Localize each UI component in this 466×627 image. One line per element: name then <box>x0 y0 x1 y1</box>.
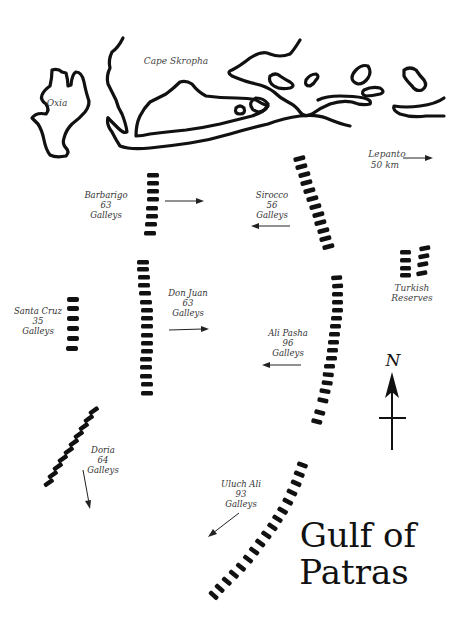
fleet-count-barbarigo: 63 <box>101 200 112 210</box>
galleys-santa-cruz <box>66 297 79 351</box>
coastline <box>32 38 444 157</box>
lepanto-arrowhead-icon <box>425 155 433 161</box>
fleet-unit-doria: Galleys <box>87 465 119 475</box>
doria-arrowhead-icon <box>85 500 91 509</box>
map-title-line1: Gulf of <box>300 515 419 555</box>
fleet-name-uluch-ali: Uluch Ali <box>221 479 261 489</box>
fleet-name-santa-cruz: Santa Cruz <box>14 306 63 316</box>
fleet-count-doria: 64 <box>98 455 109 465</box>
label-lepanto-distance: 50 km <box>371 160 399 170</box>
fleet-unit-sirocco: Galleys <box>256 210 288 220</box>
north-label: N <box>385 350 402 370</box>
islet-2 <box>270 74 294 89</box>
galleys-don-juan <box>137 260 153 396</box>
fleet-count-uluch-ali: 93 <box>236 489 247 499</box>
islet-7 <box>404 68 426 91</box>
uluch-ali-arrow <box>213 513 239 533</box>
barbarigo-arrowhead-icon <box>196 198 204 204</box>
sirocco-arrowhead-icon <box>251 223 259 229</box>
label-lepanto: Lepanto <box>367 149 406 159</box>
islet-4 <box>362 87 383 96</box>
fleet-count-don-juan: 63 <box>183 298 194 308</box>
battle-map: Oxia Cape Skropha Lepanto 50 km Barbarig… <box>0 0 466 627</box>
galleys-ali-pasha <box>311 275 343 425</box>
fleet-name-sirocco: Sirocco <box>256 190 288 200</box>
fleet-unit-don-juan: Galleys <box>172 308 204 318</box>
compass-rose: N <box>379 350 406 450</box>
label-turkish-reserves-line2: Reserves <box>390 293 433 303</box>
map-title-line2: Patras <box>299 552 408 592</box>
islet-3 <box>352 66 370 85</box>
label-cape-skropha: Cape Skropha <box>144 56 208 66</box>
fleet-count-ali-pasha: 96 <box>283 338 294 348</box>
oxia-island <box>32 69 89 156</box>
don-juan-arrowhead-icon <box>201 326 209 332</box>
east-shore <box>394 98 444 117</box>
galleys-sirocco <box>293 155 335 250</box>
label-oxia: Oxia <box>47 98 68 108</box>
fleet-name-don-juan: Don Juan <box>167 288 208 298</box>
ali-pasha-arrowhead-icon <box>262 362 270 368</box>
galleys-barbarigo <box>144 173 159 236</box>
uluch-ali-arrowhead-icon <box>208 529 217 537</box>
fleet-name-doria: Doria <box>90 445 115 455</box>
label-turkish-reserves-line1: Turkish <box>395 283 430 293</box>
mainland-west-coast <box>107 38 127 133</box>
don-juan-arrow <box>169 329 203 330</box>
islet-1 <box>306 74 319 86</box>
fleet-count-santa-cruz: 35 <box>33 316 44 326</box>
fleet-name-barbarigo: Barbarigo <box>83 190 127 200</box>
fleet-unit-santa-cruz: Galleys <box>22 326 54 336</box>
fleet-unit-barbarigo: Galleys <box>90 210 122 220</box>
fleet-unit-ali-pasha: Galleys <box>272 348 304 358</box>
islet-6 <box>236 106 245 114</box>
fleet-name-ali-pasha: Ali Pasha <box>267 328 308 338</box>
fleet-count-sirocco: 56 <box>267 200 278 210</box>
galleys-turkish-reserves <box>400 245 431 277</box>
fleet-unit-uluch-ali: Galleys <box>225 499 257 509</box>
